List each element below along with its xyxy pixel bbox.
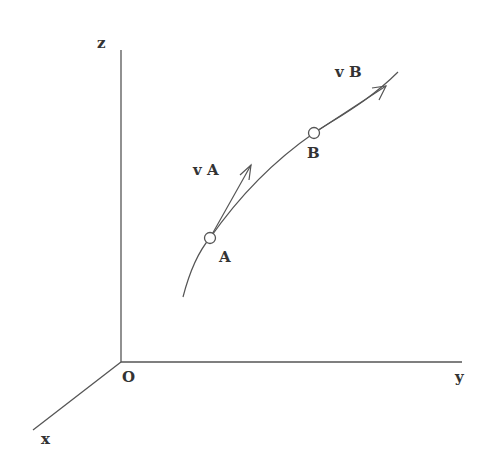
x-axis [33,362,121,430]
origin-label: O [122,368,135,386]
point-a-marker [205,233,216,244]
velocity-a-label: v A [192,161,219,179]
diagram-canvas: z y x O A B v A v B [0,0,495,476]
point-b-label: B [307,144,320,162]
z-axis-label: z [97,34,106,52]
trajectory-curve [183,72,398,297]
point-a-label: A [218,248,231,266]
point-b-marker [309,128,320,139]
axes [33,50,462,430]
arrowhead-a-icon [240,165,251,180]
velocity-vector-b [314,86,386,133]
velocity-b-label: v B [334,63,362,81]
y-axis-label: y [454,368,465,386]
x-axis-label: x [41,430,51,448]
